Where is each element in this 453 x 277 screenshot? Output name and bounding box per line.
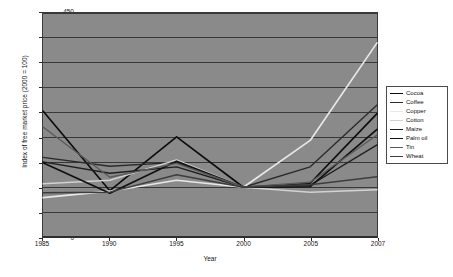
- legend: CocoaCoffeeCopperCottonMaizePalm oilTinW…: [386, 86, 448, 164]
- x-tick-label-1985: 1985: [20, 241, 64, 248]
- legend-item-maize[interactable]: Maize: [389, 125, 445, 134]
- legend-item-label: Cocoa: [406, 89, 423, 98]
- x-tick-mark-2005: [311, 238, 312, 241]
- legend-swatch-icon: [390, 93, 403, 94]
- legend-swatch-icon: [390, 111, 403, 112]
- x-tick-mark-1985: [42, 238, 43, 241]
- legend-item-label: Tin: [406, 143, 414, 152]
- x-tick-mark-1995: [176, 238, 177, 241]
- x-tick-label-1990: 1990: [87, 241, 131, 248]
- legend-item-tin[interactable]: Tin: [389, 143, 445, 152]
- x-tick-mark-2007: [378, 238, 379, 241]
- legend-item-cotton[interactable]: Cotton: [389, 116, 445, 125]
- x-tick-label-2007: 2007: [356, 241, 400, 248]
- x-tick-label-2000: 2000: [222, 241, 266, 248]
- legend-item-cocoa[interactable]: Cocoa: [389, 89, 445, 98]
- legend-swatch-icon: [390, 147, 403, 148]
- legend-item-label: Wheat: [406, 152, 423, 161]
- chart-figure: Index of free market price (2000 = 100) …: [0, 0, 453, 277]
- legend-item-label: Palm oil: [406, 134, 427, 143]
- x-tick-label-1995: 1995: [154, 241, 198, 248]
- legend-item-label: Copper: [406, 107, 426, 116]
- legend-item-coffee[interactable]: Coffee: [389, 98, 445, 107]
- series-line-tin: [43, 127, 377, 187]
- x-tick-mark-2000: [244, 238, 245, 241]
- legend-swatch-icon: [390, 138, 403, 139]
- legend-item-palm-oil[interactable]: Palm oil: [389, 134, 445, 143]
- plot-area: [42, 12, 378, 238]
- legend-item-label: Maize: [406, 125, 422, 134]
- legend-swatch-icon: [390, 102, 403, 103]
- legend-item-label: Coffee: [406, 98, 424, 107]
- legend-swatch-icon: [390, 120, 403, 121]
- x-tick-label-2005: 2005: [289, 241, 333, 248]
- legend-swatch-icon: [390, 129, 403, 130]
- legend-item-label: Cotton: [406, 116, 424, 125]
- series-lines: [43, 13, 377, 237]
- legend-swatch-icon: [390, 156, 403, 157]
- x-axis-title: Year: [42, 255, 378, 262]
- legend-item-wheat[interactable]: Wheat: [389, 152, 445, 161]
- legend-item-copper[interactable]: Copper: [389, 107, 445, 116]
- y-axis-title: Index of free market price (2000 = 100): [21, 12, 28, 212]
- x-tick-mark-1990: [109, 238, 110, 241]
